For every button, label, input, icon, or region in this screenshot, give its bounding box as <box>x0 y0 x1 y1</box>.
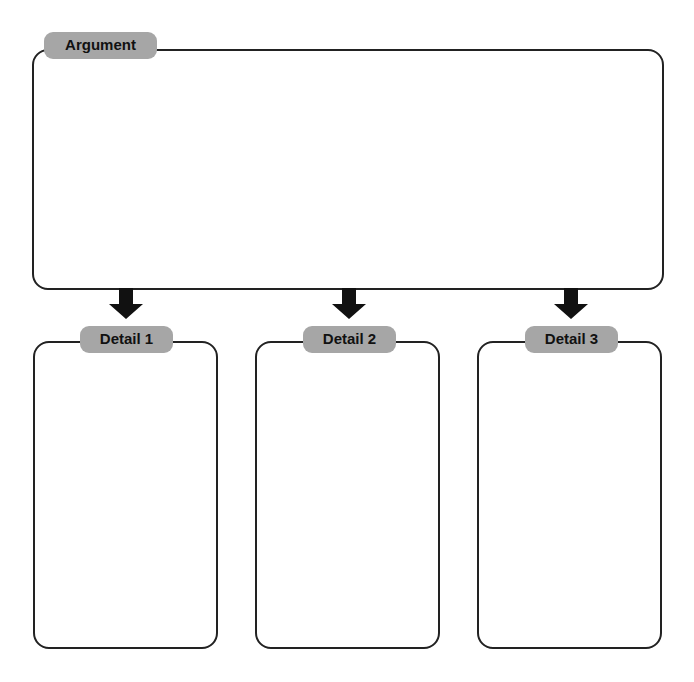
detail-1-box[interactable] <box>33 341 218 649</box>
arrow-down-icon <box>553 288 589 320</box>
argument-box[interactable] <box>32 49 664 290</box>
detail-1-label: Detail 1 <box>80 326 173 353</box>
detail-2-label: Detail 2 <box>303 326 396 353</box>
detail-3-box[interactable] <box>477 341 662 649</box>
detail-3-label: Detail 3 <box>525 326 618 353</box>
argument-label: Argument <box>44 32 157 59</box>
detail-2-box[interactable] <box>255 341 440 649</box>
arrow-down-icon <box>108 288 144 320</box>
arrow-down-icon <box>331 288 367 320</box>
